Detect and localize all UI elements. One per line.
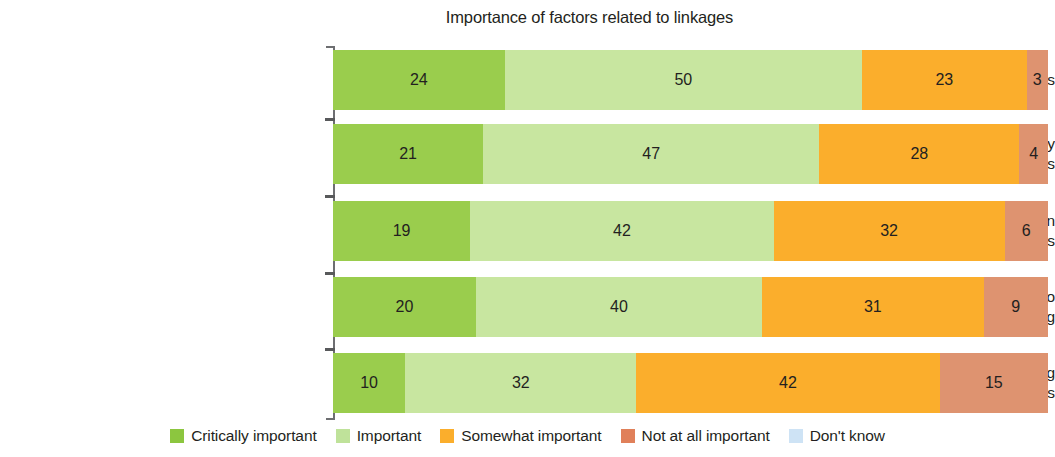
axis-cap-bottom bbox=[326, 418, 335, 420]
legend-label: Not at all important bbox=[642, 428, 770, 444]
bar-segment-value: 31 bbox=[864, 299, 882, 315]
bar-segment: 21 bbox=[333, 124, 483, 184]
bar-segment-value: 23 bbox=[935, 72, 953, 88]
bar-segment-value: 50 bbox=[674, 72, 692, 88]
legend-label: Important bbox=[357, 428, 422, 444]
chart-title: Importance of factors related to linkage… bbox=[0, 8, 1055, 27]
bar-segment-value: 15 bbox=[985, 375, 1003, 391]
chart-legend: Critically importantImportantSomewhat im… bbox=[0, 428, 1055, 444]
bar-segment-value: 47 bbox=[642, 146, 660, 162]
legend-swatch-icon bbox=[621, 429, 635, 443]
axis-cap-top bbox=[326, 46, 335, 48]
legend-item[interactable]: Important bbox=[336, 428, 422, 444]
legend-label: Somewhat important bbox=[461, 428, 601, 444]
bar-segment: 6 bbox=[1005, 201, 1048, 261]
axis-tick-2 bbox=[325, 195, 335, 198]
bar-segment-value: 10 bbox=[360, 375, 378, 391]
bar-row: 10324215 bbox=[333, 353, 1048, 413]
bar-segment-value: 32 bbox=[880, 223, 898, 239]
bar-row: 2147284 bbox=[333, 124, 1048, 184]
bar-segment-value: 6 bbox=[1022, 223, 1031, 239]
bar-segment-value: 20 bbox=[396, 299, 414, 315]
bar-segment: 42 bbox=[470, 201, 773, 261]
legend-item[interactable]: Don't know bbox=[789, 428, 885, 444]
axis-tick-3 bbox=[325, 272, 335, 275]
bar-segment-value: 3 bbox=[1033, 72, 1042, 88]
bar-segment-value: 21 bbox=[399, 146, 417, 162]
bar-segment-value: 9 bbox=[1011, 299, 1020, 315]
bar-segment-value: 19 bbox=[393, 223, 411, 239]
axis-tick-1 bbox=[325, 118, 335, 121]
bar-segment: 32 bbox=[774, 201, 1005, 261]
legend-swatch-icon bbox=[336, 429, 350, 443]
legend-label: Critically important bbox=[191, 428, 316, 444]
bar-segment: 19 bbox=[333, 201, 470, 261]
bar-segment: 32 bbox=[405, 353, 636, 413]
bar-segment: 10 bbox=[333, 353, 405, 413]
bar-row: 1942326 bbox=[333, 201, 1048, 261]
bar-row: 2450233 bbox=[333, 50, 1048, 110]
bar-row: 2040319 bbox=[333, 277, 1048, 337]
bar-segment: 28 bbox=[819, 124, 1019, 184]
bar-segment-value: 4 bbox=[1029, 146, 1038, 162]
bar-segment: 20 bbox=[333, 277, 476, 337]
legend-swatch-icon bbox=[440, 429, 454, 443]
bar-segment: 42 bbox=[636, 353, 939, 413]
bar-segment-value: 32 bbox=[512, 375, 530, 391]
legend-swatch-icon bbox=[170, 429, 184, 443]
bar-segment-value: 40 bbox=[610, 299, 628, 315]
bar-segment: 50 bbox=[505, 50, 863, 110]
bar-segment: 15 bbox=[940, 353, 1048, 413]
bar-segment: 40 bbox=[476, 277, 762, 337]
legend-swatch-icon bbox=[789, 429, 803, 443]
bar-segment-value: 24 bbox=[410, 72, 428, 88]
bar-segment-value: 42 bbox=[779, 375, 797, 391]
bar-segment: 24 bbox=[333, 50, 505, 110]
bar-segment: 23 bbox=[862, 50, 1026, 110]
bar-segment: 31 bbox=[762, 277, 984, 337]
axis-tick-4 bbox=[325, 348, 335, 351]
legend-item[interactable]: Somewhat important bbox=[440, 428, 601, 444]
bar-segment: 9 bbox=[984, 277, 1048, 337]
bar-segment-value: 42 bbox=[613, 223, 631, 239]
bar-segment: 3 bbox=[1027, 50, 1048, 110]
legend-item[interactable]: Not at all important bbox=[621, 428, 770, 444]
bar-segment-value: 28 bbox=[910, 146, 928, 162]
bar-segment: 4 bbox=[1019, 124, 1048, 184]
legend-item[interactable]: Critically important bbox=[170, 428, 316, 444]
legend-label: Don't know bbox=[810, 428, 885, 444]
stacked-bar-chart: Importance of factors related to linkage… bbox=[0, 0, 1055, 457]
chart-title-text: Importance of factors related to linkage… bbox=[446, 8, 733, 27]
bar-segment: 47 bbox=[483, 124, 819, 184]
